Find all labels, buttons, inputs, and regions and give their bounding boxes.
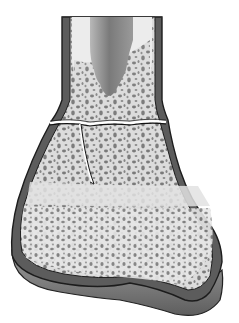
bone-drawing: [0, 0, 239, 323]
